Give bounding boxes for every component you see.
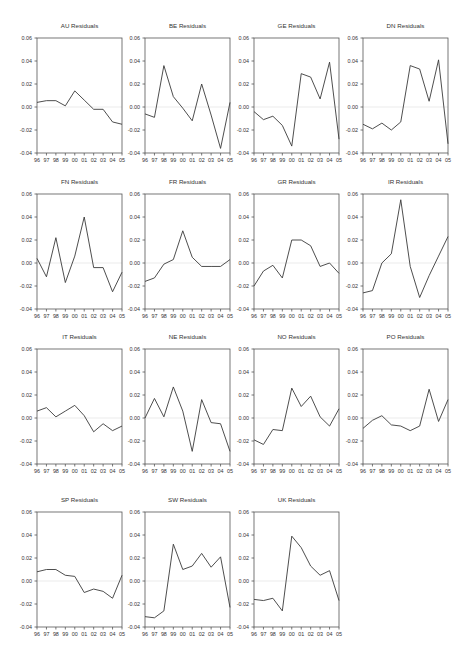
x-tick-label: 98 bbox=[53, 631, 59, 637]
panel-title: NE Residuals bbox=[169, 333, 207, 340]
y-tick-label: 0.06 bbox=[22, 509, 33, 515]
residual-series-line bbox=[254, 388, 339, 444]
x-tick-label: 96 bbox=[142, 631, 148, 637]
x-tick-label: 98 bbox=[270, 313, 276, 319]
y-axis: 0.060.040.020.00-0.02-0.04 bbox=[128, 35, 145, 156]
y-axis: 0.060.040.020.00-0.02-0.04 bbox=[128, 191, 145, 312]
x-tick-label: 01 bbox=[189, 468, 195, 474]
x-tick-label: 05 bbox=[227, 157, 233, 163]
y-tick-label: -0.02 bbox=[237, 127, 249, 133]
x-axis: 96979899000102030405 bbox=[251, 153, 342, 163]
y-tick-label: -0.02 bbox=[237, 283, 249, 289]
y-tick-label: 0.02 bbox=[22, 237, 33, 243]
panel-title: DN Residuals bbox=[387, 22, 425, 29]
plot-frame bbox=[363, 349, 448, 464]
x-tick-label: 05 bbox=[227, 468, 233, 474]
x-tick-label: 05 bbox=[445, 468, 451, 474]
x-tick-label: 96 bbox=[142, 468, 148, 474]
x-tick-label: 01 bbox=[407, 157, 413, 163]
y-tick-label: 0.06 bbox=[348, 191, 359, 197]
residual-series-line bbox=[37, 405, 122, 431]
panel-au-residuals: AU Residuals0.060.040.020.00-0.02-0.0496… bbox=[20, 22, 125, 163]
x-tick-label: 03 bbox=[426, 313, 432, 319]
x-tick-label: 02 bbox=[199, 631, 205, 637]
x-tick-label: 01 bbox=[81, 313, 87, 319]
x-tick-label: 99 bbox=[62, 631, 68, 637]
residual-series-line bbox=[363, 60, 448, 144]
x-tick-label: 97 bbox=[43, 468, 49, 474]
y-tick-label: 0.02 bbox=[348, 237, 359, 243]
y-tick-label: 0.06 bbox=[348, 35, 359, 41]
y-tick-label: 0.02 bbox=[239, 237, 250, 243]
panel-uk-residuals: UK Residuals0.060.040.020.00-0.02-0.0496… bbox=[237, 496, 342, 637]
y-tick-label: 0.02 bbox=[239, 81, 250, 87]
x-tick-label: 98 bbox=[379, 313, 385, 319]
y-tick-label: -0.02 bbox=[237, 438, 249, 444]
panel-title: FR Residuals bbox=[169, 178, 206, 185]
x-tick-label: 03 bbox=[317, 157, 323, 163]
x-axis: 96979899000102030405 bbox=[142, 627, 233, 637]
y-tick-label: 0.06 bbox=[130, 191, 141, 197]
y-tick-label: -0.02 bbox=[346, 438, 358, 444]
x-tick-label: 96 bbox=[251, 313, 257, 319]
x-tick-label: 97 bbox=[151, 313, 157, 319]
y-tick-label: -0.04 bbox=[128, 461, 140, 467]
y-axis: 0.060.040.020.00-0.02-0.04 bbox=[128, 346, 145, 467]
x-tick-label: 00 bbox=[72, 631, 78, 637]
x-tick-label: 02 bbox=[308, 313, 314, 319]
y-axis: 0.060.040.020.00-0.02-0.04 bbox=[237, 191, 254, 312]
x-axis: 96979899000102030405 bbox=[142, 153, 233, 163]
panel-ne-residuals: NE Residuals0.060.040.020.00-0.02-0.0496… bbox=[128, 333, 233, 474]
y-tick-label: 0.02 bbox=[130, 555, 141, 561]
y-tick-label: 0.00 bbox=[239, 415, 250, 421]
x-tick-label: 05 bbox=[336, 313, 342, 319]
residual-series-line bbox=[145, 231, 230, 282]
x-tick-label: 00 bbox=[289, 631, 295, 637]
x-tick-label: 02 bbox=[91, 631, 97, 637]
x-tick-label: 05 bbox=[336, 157, 342, 163]
y-tick-label: 0.00 bbox=[22, 260, 33, 266]
x-tick-label: 04 bbox=[110, 157, 116, 163]
plot-frame bbox=[254, 349, 339, 464]
residuals-chart-grid: AU Residuals0.060.040.020.00-0.02-0.0496… bbox=[0, 0, 467, 653]
x-tick-label: 02 bbox=[199, 468, 205, 474]
x-tick-label: 02 bbox=[308, 631, 314, 637]
x-axis: 96979899000102030405 bbox=[251, 309, 342, 319]
x-tick-label: 97 bbox=[43, 313, 49, 319]
y-tick-label: -0.04 bbox=[128, 150, 140, 156]
panel-title: GR Residuals bbox=[277, 178, 315, 185]
y-tick-label: 0.00 bbox=[22, 104, 33, 110]
x-tick-label: 00 bbox=[398, 157, 404, 163]
panel-title: AU Residuals bbox=[61, 22, 99, 29]
x-tick-label: 97 bbox=[151, 631, 157, 637]
x-tick-label: 99 bbox=[170, 468, 176, 474]
y-tick-label: 0.02 bbox=[22, 555, 33, 561]
residual-series-line bbox=[37, 217, 122, 292]
y-tick-label: 0.02 bbox=[239, 555, 250, 561]
y-tick-label: 0.00 bbox=[348, 415, 359, 421]
y-tick-label: 0.00 bbox=[130, 104, 141, 110]
x-tick-label: 99 bbox=[388, 157, 394, 163]
x-tick-label: 03 bbox=[426, 468, 432, 474]
x-axis: 96979899000102030405 bbox=[34, 627, 125, 637]
x-tick-label: 99 bbox=[279, 468, 285, 474]
x-tick-label: 98 bbox=[270, 468, 276, 474]
x-tick-label: 03 bbox=[426, 157, 432, 163]
x-tick-label: 99 bbox=[170, 631, 176, 637]
x-tick-label: 02 bbox=[91, 157, 97, 163]
y-tick-label: 0.02 bbox=[130, 392, 141, 398]
y-axis: 0.060.040.020.00-0.02-0.04 bbox=[346, 35, 363, 156]
x-tick-label: 01 bbox=[81, 157, 87, 163]
y-axis: 0.060.040.020.00-0.02-0.04 bbox=[237, 509, 254, 630]
y-tick-label: -0.02 bbox=[20, 127, 32, 133]
y-tick-label: 0.02 bbox=[239, 392, 250, 398]
x-tick-label: 96 bbox=[251, 157, 257, 163]
panel-title: SP Residuals bbox=[61, 496, 98, 503]
x-axis: 96979899000102030405 bbox=[142, 309, 233, 319]
x-tick-label: 02 bbox=[417, 313, 423, 319]
x-axis: 96979899000102030405 bbox=[251, 464, 342, 474]
x-tick-label: 04 bbox=[218, 313, 224, 319]
x-tick-label: 98 bbox=[270, 157, 276, 163]
y-axis: 0.060.040.020.00-0.02-0.04 bbox=[128, 509, 145, 630]
panel-title: NO Residuals bbox=[277, 333, 315, 340]
